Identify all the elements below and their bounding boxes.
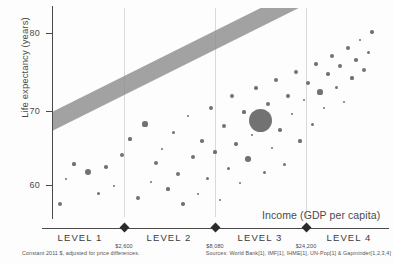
data-bubble (181, 202, 184, 205)
data-bubble (330, 54, 334, 58)
level-label-level-1: LEVEL 1 (50, 232, 110, 243)
data-bubble (249, 109, 272, 132)
level-boundary-value: $8,080 (193, 243, 237, 249)
data-bubble (362, 68, 366, 72)
data-bubble (314, 62, 318, 66)
data-bubble (120, 153, 124, 157)
x-axis-title: Income (GDP per capita) (262, 209, 380, 221)
data-bubble (274, 78, 279, 83)
data-bubble (72, 162, 75, 165)
data-bubble (263, 171, 266, 174)
data-bubble (128, 137, 131, 140)
y-tick-mark (46, 111, 52, 112)
data-bubble (219, 199, 222, 202)
level-label-level-2: LEVEL 2 (139, 232, 199, 243)
footnote-sources: Sources: World Bank[1], IMF[1], IHME[1],… (206, 250, 391, 256)
data-bubble (317, 89, 322, 94)
data-bubble (172, 131, 175, 134)
level-boundary-marker (119, 223, 129, 233)
data-bubble (227, 167, 230, 170)
gapminder-bubble-chart: 807060 Life expectancy (years) Income (G… (0, 0, 394, 263)
data-bubble (150, 181, 153, 184)
data-bubble (206, 177, 209, 180)
data-bubble (213, 150, 216, 153)
data-bubble (326, 72, 329, 75)
data-bubble (197, 193, 200, 196)
data-bubble (359, 39, 362, 42)
data-bubble (271, 147, 274, 150)
y-axis-line (52, 6, 53, 219)
level-boundary-marker (210, 223, 220, 233)
plot-area (52, 8, 382, 217)
data-bubble (298, 139, 301, 142)
data-bubble (154, 161, 158, 165)
y-tick-mark (46, 185, 52, 186)
data-bubble (239, 182, 242, 185)
data-bubble (350, 76, 353, 79)
gridline-$24,200 (306, 8, 307, 217)
data-bubble (230, 94, 234, 98)
data-bubble (142, 121, 147, 126)
data-bubble (209, 106, 214, 111)
level-label-level-4: LEVEL 4 (319, 232, 379, 243)
data-bubble (294, 70, 298, 74)
data-bubble (113, 185, 116, 188)
gridline-$2,600 (124, 8, 125, 217)
trend-band (52, 8, 382, 136)
data-bubble (367, 51, 370, 54)
data-bubble (161, 148, 164, 151)
data-bubble (266, 102, 270, 106)
data-bubble (343, 101, 346, 104)
data-bubble (187, 115, 190, 118)
y-tick-label: 60 (22, 180, 40, 190)
footnote-price-note: Constant 2011 $, adjusted for price diff… (22, 250, 140, 256)
data-bubble (346, 46, 351, 51)
data-bubble (335, 86, 338, 89)
data-bubble (85, 169, 92, 176)
data-bubble (104, 165, 108, 169)
data-bubble (278, 128, 281, 131)
data-bubble (303, 99, 306, 102)
data-bubble (65, 178, 68, 181)
data-bubble (370, 30, 373, 33)
data-bubble (323, 107, 326, 110)
level-boundary-value: $24,200 (284, 243, 328, 249)
data-bubble (354, 58, 358, 62)
level-boundary-marker (301, 223, 311, 233)
data-bubble (286, 94, 290, 98)
y-axis-title: Life expectancy (years) (19, 0, 30, 138)
data-bubble (166, 187, 169, 190)
data-bubble (58, 202, 62, 206)
data-bubble (338, 64, 342, 68)
data-bubble (176, 172, 181, 177)
data-bubble (191, 155, 195, 159)
data-bubble (97, 192, 100, 195)
data-bubble (136, 196, 140, 200)
data-bubble (311, 123, 314, 126)
level-label-level-3: LEVEL 3 (230, 232, 290, 243)
data-bubble (234, 142, 237, 145)
y-tick-mark (46, 33, 52, 34)
data-bubble (242, 110, 245, 113)
data-bubble (291, 113, 294, 116)
data-bubble (200, 139, 204, 143)
data-bubble (222, 124, 226, 128)
data-bubble (283, 163, 286, 166)
data-bubble (245, 156, 251, 162)
level-boundary-value: $2,600 (102, 243, 146, 249)
data-bubble (254, 86, 258, 90)
data-bubble (306, 81, 310, 85)
data-bubble (251, 134, 254, 137)
